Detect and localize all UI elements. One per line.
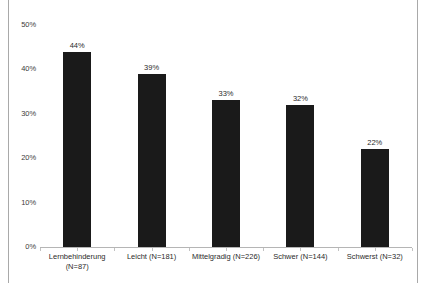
y-axis-tick-label: 20%: [6, 154, 36, 162]
bar-value-label: 33%: [196, 89, 256, 98]
bar: [63, 52, 91, 247]
x-axis-tick-mark: [338, 248, 339, 251]
x-axis-category-label: Leicht (N=181): [114, 252, 188, 262]
x-axis-tick-mark: [300, 248, 301, 251]
x-axis-category-label: Mittelgradig (N=226): [189, 252, 263, 262]
x-axis-category-label: Schwer (N=144): [263, 252, 337, 262]
bar: [138, 74, 166, 247]
x-axis-tick-mark: [189, 248, 190, 251]
bar-value-label: 44%: [47, 41, 107, 50]
bar: [361, 149, 389, 247]
x-axis-category-label: Schwerst (N=32): [338, 252, 412, 262]
x-axis-tick-mark: [412, 248, 413, 251]
bar-value-label: 22%: [345, 138, 405, 147]
bar: [212, 100, 240, 247]
y-axis-tick-label: 40%: [6, 65, 36, 73]
x-axis-tick-mark: [263, 248, 264, 251]
bar: [286, 105, 314, 247]
y-axis-tick-label: 0%: [6, 243, 36, 251]
plot-area: 0%10%20%30%40%50% 44%39%33%32%22% Lernbe…: [0, 0, 431, 283]
x-axis-tick-mark: [77, 248, 78, 251]
x-axis-tick-mark: [40, 248, 41, 251]
bar-value-label: 32%: [270, 94, 330, 103]
y-axis-tick-label: 10%: [6, 199, 36, 207]
x-axis-tick-mark: [226, 248, 227, 251]
x-axis-tick-mark: [375, 248, 376, 251]
y-axis-tick-label: 30%: [6, 110, 36, 118]
x-axis-category-label: Lernbehinderung (N=87): [40, 252, 114, 272]
bar-value-label: 39%: [122, 63, 182, 72]
y-axis-tick-label: 50%: [6, 21, 36, 29]
x-axis-tick-mark: [152, 248, 153, 251]
bar-chart-figure: 0%10%20%30%40%50% 44%39%33%32%22% Lernbe…: [0, 0, 431, 283]
x-axis-tick-mark: [114, 248, 115, 251]
